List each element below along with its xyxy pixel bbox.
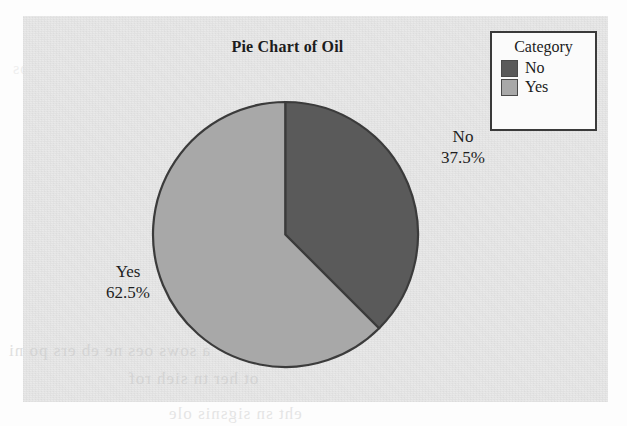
slice-label-no-percent: 37.5%	[420, 148, 506, 169]
slice-label-no: No 37.5%	[420, 127, 506, 168]
page-title: Pie Chart of Oil	[0, 38, 575, 56]
legend-label-yes: Yes	[525, 79, 548, 95]
legend-item-no[interactable]: No	[492, 59, 595, 78]
legend-title: Category	[492, 38, 595, 59]
legend-swatch-no-icon	[501, 60, 518, 77]
slice-label-yes-name: Yes	[82, 262, 174, 283]
scan-bleedthrough-text: eht sn sigsnis ole	[168, 404, 302, 424]
legend-label-no: No	[525, 60, 545, 76]
pie-chart-screenshot: ods ano ni teos Pie Chart of Oil No 37.5…	[0, 0, 627, 426]
legend: Category No Yes	[490, 31, 597, 131]
slice-label-yes: Yes 62.5%	[82, 262, 174, 303]
legend-swatch-yes-icon	[501, 79, 518, 96]
pie-chart	[151, 100, 420, 369]
legend-item-yes[interactable]: Yes	[492, 78, 595, 97]
pie-svg	[151, 100, 420, 369]
slice-label-yes-percent: 62.5%	[82, 283, 174, 304]
